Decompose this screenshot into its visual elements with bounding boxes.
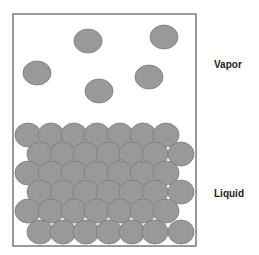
liquid-particle — [38, 199, 64, 223]
vapor-particle — [74, 29, 102, 53]
vapor-liquid-diagram — [0, 0, 259, 255]
liquid-particles — [15, 123, 194, 244]
liquid-particle — [130, 199, 156, 223]
liquid-particle — [61, 199, 87, 223]
liquid-particle — [153, 199, 179, 223]
vapor-particle — [85, 79, 113, 103]
vapor-particle — [23, 61, 51, 85]
vapor-label: Vapor — [214, 59, 242, 70]
liquid-particle — [73, 220, 99, 244]
liquid-particle — [84, 199, 110, 223]
liquid-particle — [107, 199, 133, 223]
liquid-label: Liquid — [214, 188, 244, 199]
vapor-particles — [23, 25, 178, 103]
liquid-particle — [168, 220, 194, 244]
liquid-particle — [142, 220, 168, 244]
vapor-particle — [150, 25, 178, 49]
liquid-particle — [96, 220, 122, 244]
liquid-particle — [27, 220, 53, 244]
vapor-particle — [135, 65, 163, 89]
liquid-particle — [15, 199, 41, 223]
liquid-particle — [50, 220, 76, 244]
liquid-particle — [119, 220, 145, 244]
